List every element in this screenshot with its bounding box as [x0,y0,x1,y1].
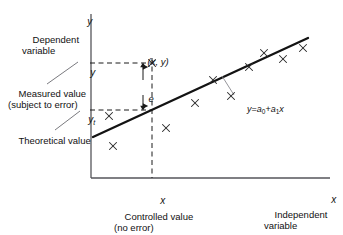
equation-x: x [279,104,284,114]
y-axis-name-text: y [87,16,92,27]
residual-label: e [138,81,154,116]
controlled-value-text: Controlled value (no error) [114,211,193,234]
controlled-value-label: Controlled value (no error) [114,199,219,235]
equation-a1: a [271,104,276,114]
data-point [163,125,170,132]
linear-regression-diagram: Dependent variable y y yt Measured value… [0,0,343,235]
data-point [192,100,199,107]
measured-value-text: Measured value (subject to error) [8,88,86,111]
data-point [261,50,268,57]
residual-text: e [149,93,154,104]
independent-variable-text: Independent variable [264,209,327,232]
data-point [228,93,235,100]
equation-a1-subscript: 1 [276,108,280,115]
measured-point-label: (x, y) [137,44,169,79]
measured-point-text: (x, y) [148,56,169,67]
data-point [300,45,307,52]
equation-a0-subscript: 0 [262,108,266,115]
y-axis-name: y [76,4,92,39]
regression-equation-label: y=a0+a1x [237,92,284,127]
independent-variable-label: Independent variable [264,197,343,235]
measured-value-label: Measured value (subject to error) [8,76,108,122]
data-point [280,56,287,63]
dependent-variable-text: Dependent variable [22,34,79,57]
theoretical-value-label: Theoretical value [8,123,118,158]
theoretical-value-text: Theoretical value [18,135,90,146]
